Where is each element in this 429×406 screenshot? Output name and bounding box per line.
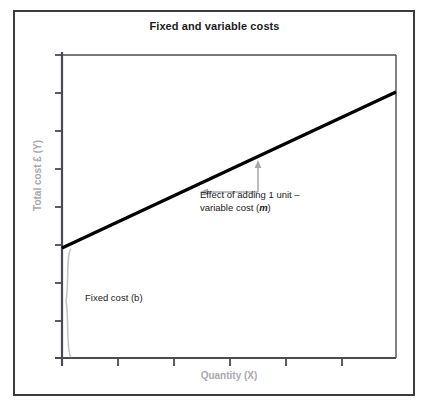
leader-arrowhead-up (255, 160, 262, 168)
fixed-cost-brace (66, 249, 71, 357)
fixed-cost-annotation-text: Fixed cost (b) (85, 292, 143, 305)
slope-annotation-line2: variable cost (m) (200, 202, 300, 215)
slope-annotation-prefix: variable cost ( (200, 202, 259, 213)
slope-annotation-suffix: ) (268, 202, 271, 213)
slope-annotation-text: Effect of adding 1 unit – variable cost … (200, 189, 300, 214)
slope-annotation-symbol: m (259, 202, 267, 213)
x-axis-label: Quantity (X) (62, 370, 396, 381)
y-axis-label: Total cost £ (Y) (32, 121, 43, 231)
x-axis-ticks (118, 358, 342, 366)
chart-figure: Fixed and variable costs (0, 0, 429, 406)
total-cost-line (62, 92, 396, 248)
slope-annotation-line1: Effect of adding 1 unit – (200, 189, 300, 202)
